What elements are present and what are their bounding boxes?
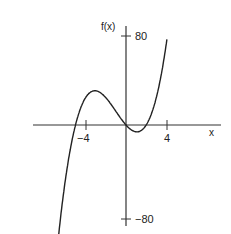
x-tick-label-4: 4	[164, 133, 170, 144]
x-axis-label: x	[209, 128, 214, 138]
y-tick-label-neg80: −80	[135, 214, 154, 225]
x-tick-label-neg4: −4	[77, 133, 90, 144]
function-curve	[58, 39, 167, 234]
y-tick-label-80: 80	[135, 31, 147, 42]
y-axis-label: f(x)	[101, 22, 115, 32]
plot-area	[0, 0, 231, 234]
